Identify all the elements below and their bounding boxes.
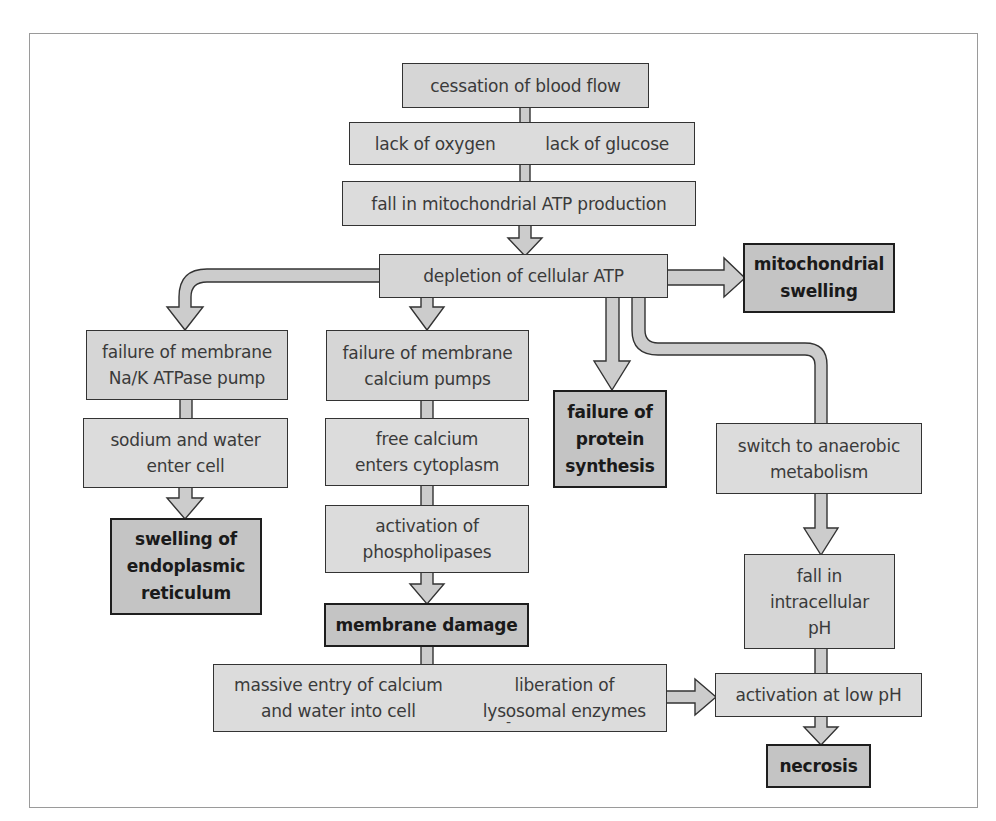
connector-lack-fall <box>520 164 530 182</box>
node-label: protein <box>576 426 644 453</box>
node-label: massive entry of calcium <box>234 672 443 698</box>
node-label: endoplasmic <box>127 553 246 580</box>
arrow-depletion-ca <box>410 297 444 330</box>
node-label: swelling <box>780 278 858 305</box>
node-massive-left: massive entry of calcium and water into … <box>234 672 443 724</box>
node-label-oxygen: lack of oxygen <box>375 131 496 157</box>
node-label: calcium pumps <box>364 366 490 392</box>
node-label: synthesis <box>565 453 654 480</box>
node-er-swelling: swelling of endoplasmic reticulum <box>110 518 262 615</box>
arrow-phospho-damage <box>410 572 444 604</box>
node-label: membrane damage <box>335 612 517 639</box>
node-label: activation at low pH <box>735 682 901 708</box>
node-label: activation of <box>375 513 478 539</box>
node-label: mitochondrial <box>754 251 884 278</box>
node-label: fall in <box>797 563 842 589</box>
node-protein-failure: failure of protein synthesis <box>553 390 667 488</box>
node-label: liberation of <box>514 672 614 698</box>
node-cessation: cessation of blood flow <box>402 63 649 108</box>
arrow-fall-depletion <box>508 225 542 256</box>
node-free-calcium: free calcium enters cytoplasm <box>325 418 529 486</box>
node-label: swelling of <box>135 526 237 553</box>
separator-dash: - <box>506 709 511 735</box>
node-ca-failure: failure of membrane calcium pumps <box>326 330 529 401</box>
node-massive: massive entry of calcium and water into … <box>213 664 667 732</box>
arrow-lowph-necrosis <box>804 716 838 745</box>
node-label: phospholipases <box>363 539 492 565</box>
node-lack: lack of oxygen lack of glucose <box>349 122 695 165</box>
node-label: failure of <box>567 399 653 426</box>
node-label: necrosis <box>779 753 857 780</box>
node-label: fall in mitochondrial ATP production <box>371 191 666 217</box>
arrow-anaerobic-ph <box>804 493 838 555</box>
node-label: enter cell <box>146 453 224 479</box>
node-label: metabolism <box>770 459 868 485</box>
arrow-depletion-protein <box>594 297 630 390</box>
node-fall-ph: fall in intracellular pH <box>744 554 895 649</box>
node-label: free calcium <box>376 426 478 452</box>
connector-damage-massive <box>421 646 433 665</box>
node-label: failure of membrane <box>342 340 512 366</box>
node-membrane-damage: membrane damage <box>324 603 529 647</box>
node-depletion: depletion of cellular ATP <box>379 254 668 298</box>
node-label: switch to anaerobic <box>738 433 900 459</box>
arrow-massive-lowph <box>666 679 716 715</box>
arrow-depletion-mito <box>667 258 745 297</box>
node-fall-atp: fall in mitochondrial ATP production <box>342 181 696 226</box>
node-necrosis: necrosis <box>766 744 871 788</box>
node-label: failure of membrane <box>102 339 272 365</box>
node-sodium-water: sodium and water enter cell <box>83 418 288 488</box>
node-label: reticulum <box>141 580 231 607</box>
node-label-glucose: lack of glucose <box>545 131 669 157</box>
node-label: sodium and water <box>110 427 260 453</box>
node-anaerobic: switch to anaerobic metabolism <box>716 423 922 494</box>
node-label: depletion of cellular ATP <box>423 263 624 289</box>
node-phospholipases: activation of phospholipases <box>325 505 529 573</box>
node-label: cessation of blood flow <box>430 73 621 99</box>
connector-ca-free <box>421 400 433 419</box>
connector-nak-sodium <box>180 399 192 419</box>
node-label: pH <box>808 615 831 641</box>
connector-cessation-lack <box>520 107 530 123</box>
connector-free-phospho <box>421 485 433 506</box>
node-label: and water into cell <box>261 698 416 724</box>
node-label: enters cytoplasm <box>355 452 499 478</box>
arrow-depletion-nak <box>167 269 380 330</box>
arrow-sodium-er <box>167 487 203 519</box>
node-label: Na/K ATPase pump <box>109 365 265 391</box>
connector-ph-lowph <box>815 648 827 674</box>
node-low-ph: activation at low pH <box>715 673 922 717</box>
node-label: intracellular <box>770 589 869 615</box>
node-nak-failure: failure of membrane Na/K ATPase pump <box>86 330 288 400</box>
node-mito-swelling: mitochondrial swelling <box>743 243 895 313</box>
